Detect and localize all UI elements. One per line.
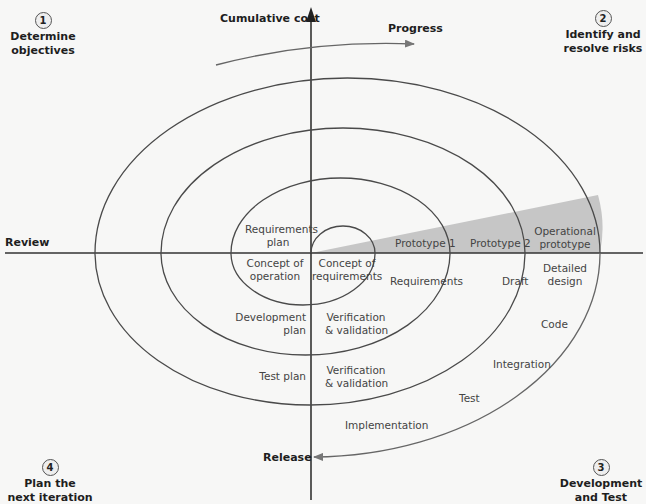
- implementation-label: Implementation: [345, 419, 428, 432]
- draft-label: Draft: [502, 275, 528, 288]
- verification-validation-1-label: Verification & validation: [325, 311, 387, 337]
- prototype-1-label: Prototype 1: [395, 237, 451, 250]
- concept-of-operation-label: Concept of operation: [240, 257, 310, 283]
- quadrant-2: 2 Identify and resolve risks: [560, 10, 646, 56]
- requirements-label: Requirements: [390, 275, 463, 288]
- prototype-2-label: Prototype 2: [470, 237, 526, 250]
- spiral-diagram: [0, 0, 646, 504]
- step-number-badge: 1: [35, 12, 52, 29]
- integration-label: Integration: [493, 358, 551, 371]
- development-plan-label: Development plan: [230, 311, 306, 337]
- step-number-badge: 2: [595, 10, 612, 27]
- verification-validation-2-label: Verification & validation: [325, 364, 387, 390]
- release-label: Release: [263, 451, 312, 464]
- progress-label: Progress: [388, 22, 443, 35]
- test-plan-label: Test plan: [240, 370, 306, 383]
- requirements-plan-label: Requirements plan: [245, 223, 311, 249]
- concept-of-requirements-label: Concept of requirements: [312, 257, 382, 283]
- quadrant-1: 1 Determine objectives: [4, 12, 82, 58]
- quadrant-4: 4 Plan the next iteration: [0, 459, 100, 504]
- operational-prototype-label: Operational prototype: [530, 225, 600, 251]
- cumulative-cost-label: Cumulative cost: [220, 12, 320, 25]
- progress-arrow: [216, 43, 414, 65]
- quadrant-3: 3 Development and Test: [556, 459, 646, 504]
- code-label: Code: [541, 318, 568, 331]
- step-number-badge: 3: [593, 459, 610, 476]
- review-label: Review: [5, 236, 50, 249]
- step-number-badge: 4: [42, 459, 59, 476]
- detailed-design-label: Detailed design: [535, 262, 595, 288]
- test-label: Test: [459, 392, 480, 405]
